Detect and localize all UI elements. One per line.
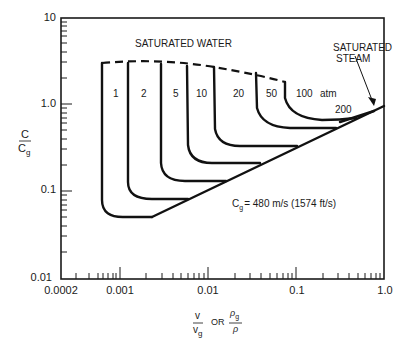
label-1-atm: 1: [113, 88, 119, 99]
xlabel-vg: vg: [193, 324, 202, 338]
curve-10-atm: [187, 66, 260, 163]
y-tick-10: 10: [16, 11, 56, 23]
label-5-atm: 5: [173, 88, 179, 99]
label-200-atm: 200: [335, 104, 352, 115]
y-axis-ticks: [61, 22, 72, 252]
ylabel-numerator: C: [21, 128, 29, 140]
x-tick-0-1: 0.1: [272, 284, 322, 296]
label-2-atm: 2: [141, 88, 147, 99]
label-100-atm: 100: [296, 88, 313, 99]
label-saturated-water: SATURATED WATER: [135, 38, 232, 49]
label-atm-unit: atm: [320, 88, 337, 99]
x-tick-0-0002: 0.0002: [36, 284, 86, 296]
label-50-atm: 50: [266, 88, 277, 99]
xlabel-rho-g: ρg: [230, 308, 239, 320]
x-tick-0-01: 0.01: [183, 284, 233, 296]
label-20-atm: 20: [233, 88, 244, 99]
label-saturated-steam-2: STEAM: [336, 53, 370, 64]
curve-saturated-water-dashed: [102, 61, 285, 82]
x-tick-0-001: 0.001: [95, 284, 145, 296]
label-10-atm: 10: [196, 88, 207, 99]
xlabel-v: v: [195, 310, 200, 321]
x-axis-ticks: [76, 267, 380, 279]
label-saturated-steam-1: SATURATED: [333, 42, 392, 53]
y-tick-1: 1.0: [16, 97, 56, 109]
xlabel-rho: ρ: [233, 324, 238, 334]
y-tick-0-1: 0.1: [16, 183, 56, 195]
x-tick-1-0: 1.0: [360, 284, 409, 296]
label-cg-value: Cg= 480 m/s (1574 ft/s): [232, 198, 336, 211]
xlabel-or: OR: [211, 317, 225, 327]
ylabel-denominator: Cg: [18, 142, 30, 157]
y-tick-0-01: 0.01: [12, 271, 52, 283]
curve-2-atm: [128, 63, 188, 199]
